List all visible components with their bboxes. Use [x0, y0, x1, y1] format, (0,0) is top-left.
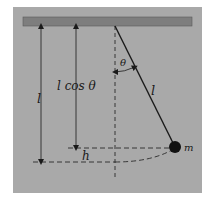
label-length-cos: l cos θ	[57, 79, 97, 93]
pendulum-diagram: l l cos θ θ l h m	[0, 0, 208, 208]
label-height-h: h	[82, 149, 90, 163]
label-mass-m: m	[184, 142, 193, 153]
label-string-length: l	[151, 83, 155, 98]
pendulum-bob	[169, 141, 181, 153]
ceiling-bar	[23, 17, 192, 26]
label-length-left: l	[37, 91, 41, 106]
label-angle-theta: θ	[120, 57, 126, 68]
